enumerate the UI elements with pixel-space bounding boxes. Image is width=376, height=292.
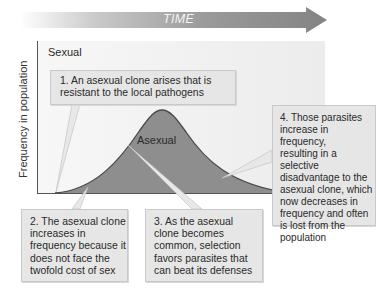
time-label: TIME [163,12,194,26]
asexual-label: Asexual [137,134,176,146]
callout-3-line-2: clone becomes [154,228,262,240]
callout-4-line-2: increase in frequency, [280,124,375,148]
callout-2-line-2: increases in [30,228,127,240]
callout-4-line-7: frequency and often [280,208,375,220]
callout-3-line-1: 3. As the asexual [154,216,262,228]
callout-2-line-4: does not face the [30,253,127,265]
callout-3-line-5: can beat its defenses [154,265,262,277]
callout-2-line-3: frequency because it [30,240,127,252]
callout-4-line-3: resulting in a selective [280,148,375,172]
callout-2-line-1: 2. The asexual clone [30,216,127,228]
callout-1-line-1: 1. An asexual clone arises that is [60,75,235,87]
callout-step-1: 1. An asexual clone arises that is resis… [50,70,236,105]
y-axis-label: Frequency in population [17,61,29,178]
callout-4-line-5: asexual clone, which [280,184,375,196]
callout-3-line-4: favors parasites that [154,253,262,265]
callout-step-3: 3. As the asexual clone becomes common, … [145,209,263,282]
callout-step-4: 4. Those parasites increase in frequency… [272,105,376,226]
callout-1-line-2: resistant to the local pathogens [60,87,235,99]
callout-4-line-6: now decreases in [280,196,375,208]
callout-4-line-9: population [280,232,375,244]
callout-4-line-1: 4. Those parasites [280,112,375,124]
callout-4-line-4: disadvantage to the [280,172,375,184]
callout-3-line-3: common, selection [154,240,262,252]
callout-step-2: 2. The asexual clone increases in freque… [21,209,128,282]
sexual-label: Sexual [48,46,82,58]
callout-2-line-5: twofold cost of sex [30,265,127,277]
callout-4-line-8: is lost from the [280,220,375,232]
